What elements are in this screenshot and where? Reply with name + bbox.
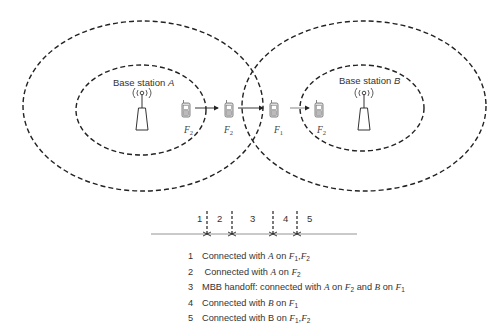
legend-item-text: 1 [294,302,298,309]
terminal-frequency-label: F2 [184,125,193,136]
legend-item: 5Connected with B on F1,F2 [188,312,405,326]
legend-item-number: 4 [188,297,202,310]
legend-item-text: and [354,282,374,292]
mobile-phone-icon [315,100,323,117]
legend-item-text: on [380,282,395,292]
legend-item-text: 2 [307,317,311,324]
legend-item-text: 1 [401,286,405,293]
mobile-phone-icon [182,100,190,117]
legend-item-number: 3 [188,281,202,294]
legend-item-text: 2 [297,271,301,278]
legend-item-text: MBB handoff: connected with [202,282,324,292]
legend-item: 2 Connected with A on F2 [188,266,405,282]
legend-item: 1Connected with A on F1,F2 [188,250,405,266]
legend-item-number: 1 [188,250,202,263]
timeline-segment-label: 1 [197,213,202,224]
base-station-a-tower-icon [133,88,151,130]
legend: 1Connected with A on F1,F22 Connected wi… [188,250,405,326]
legend-item-text: Connected with [202,298,268,308]
timeline-segment-label: 5 [307,213,312,224]
legend-item: 4Connected with B on F1 [188,297,405,313]
base-station-a-label: Base station A [113,77,174,88]
terminal-frequency-label: F2 [317,125,326,136]
legend-item-text: 2 [306,255,310,262]
legend-item-text: on [274,298,289,308]
terminal-frequency-label: F1 [274,125,283,136]
legend-item-number: 5 [188,312,202,325]
legend-item: 3MBB handoff: connected with A on F2 and… [188,281,405,297]
mobile-phone-icon [270,100,278,117]
legend-item-text: Connected with B on [202,313,289,323]
legend-item-text: on [276,267,291,277]
timeline-segment-label: 3 [250,213,255,224]
base-station-b-label: Base station B [339,75,400,86]
timeline-segment-label: 4 [283,213,288,224]
timeline-segment-label: 2 [217,213,222,224]
legend-item-text: Connected with [202,251,268,261]
legend-item-number: 2 [188,266,202,279]
legend-item-text: Connected with [202,267,270,277]
base-station-b-tower-icon [355,88,373,130]
legend-item-text: on [274,251,289,261]
terminal-frequency-label: F2 [224,125,233,136]
mobile-phone-icon [225,100,233,117]
legend-item-text: on [330,282,345,292]
